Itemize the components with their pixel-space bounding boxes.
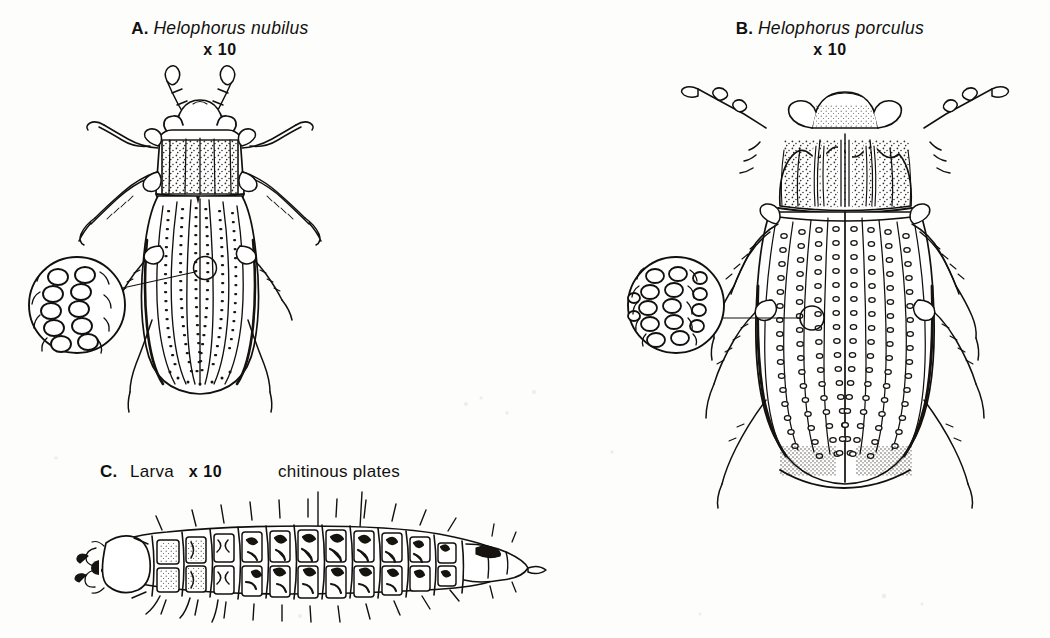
elytra-a [141,196,258,394]
antenna-right-b [924,87,1009,173]
figure-a-letter: A. [131,19,148,38]
head-b [789,92,902,128]
antenna-left-b [682,87,767,173]
larva-legs [146,596,218,622]
figure-a-species: Helophorus nubilus [153,18,308,38]
figure-c-letter: C. [100,462,117,481]
figure-a-magnification: x 10 [60,41,380,60]
caption-figure-a: A. Helophorus nubilus x 10 [60,18,380,60]
figure-c-label: Larva [130,462,174,481]
figure-b-magnification: x 10 [660,41,1000,60]
pronotum-b [778,134,912,213]
figure-c-magnification: x 10 [189,463,223,480]
figure-b-species: Helophorus porculus [758,18,924,38]
elytra-b [756,212,934,488]
annotation-chitinous-plates: chitinous plates [278,462,478,482]
larva-tail [464,524,546,598]
larva-head [75,536,150,593]
figure-c-larva [75,492,546,622]
figure-b-letter: B. [736,19,753,38]
caption-figure-b: B. Helophorus porculus x 10 [660,18,1000,60]
figure-b-helophorus-porculus [628,87,1009,508]
pronotum-a [156,130,244,200]
chitinous-plates-label: chitinous plates [278,462,400,481]
figure-a-helophorus-nubilus [29,66,321,412]
chitinous-plates-leader-lines [318,492,362,528]
illustration-plate [0,0,1050,638]
